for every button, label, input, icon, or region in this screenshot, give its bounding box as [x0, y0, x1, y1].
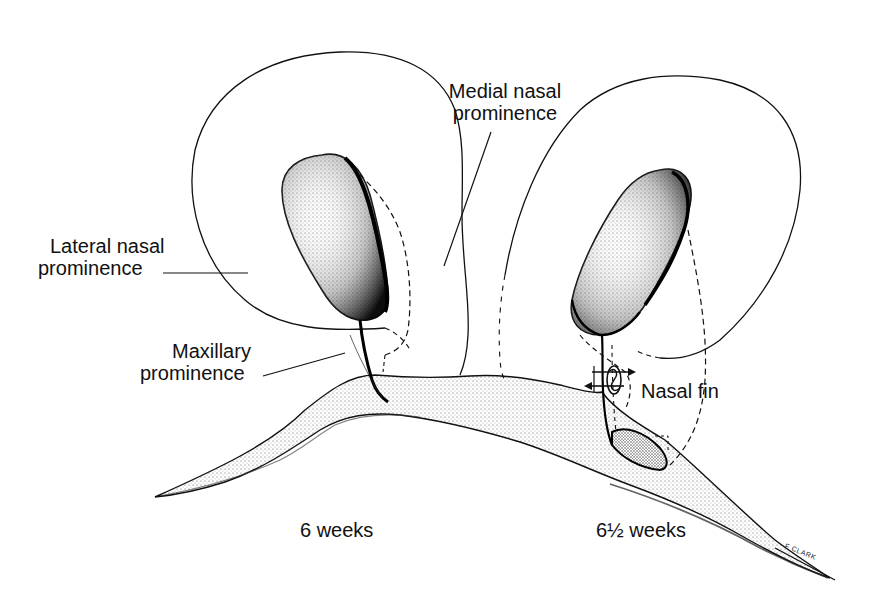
label-medial-nasal-line1: Medial nasal [430, 80, 580, 102]
label-lateral-nasal-line2: prominence [38, 257, 165, 279]
label-maxillary-line2: prominence [140, 362, 251, 384]
maxillary-band [155, 375, 830, 578]
nasal-fin-marker [584, 366, 636, 394]
label-lateral-nasal-prominence: Lateral nasal prominence [50, 235, 165, 279]
label-lateral-nasal-line1: Lateral nasal [50, 235, 165, 257]
label-nasal-fin: Nasal fin [641, 380, 719, 402]
label-maxillary-prominence: Maxillary prominence [172, 340, 251, 384]
label-stage-6-weeks: 6 weeks [300, 519, 373, 541]
label-maxillary-line1: Maxillary [172, 340, 251, 362]
label-medial-nasal-prominence: Medial nasal prominence [430, 80, 580, 124]
label-stage-6-5-weeks: 6½ weeks [596, 519, 686, 541]
label-medial-nasal-line2: prominence [430, 102, 580, 124]
